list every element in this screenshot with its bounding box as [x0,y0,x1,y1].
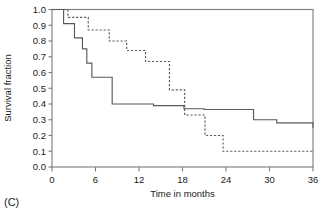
x-tick-label: 0 [49,174,54,185]
survival-curve-dashed [52,10,313,152]
survival-curve-chart: 0.00.10.20.30.40.50.60.70.80.91.0 061218… [0,0,327,217]
panel-label: (C) [4,196,19,208]
y-tick-label: 0.3 [33,114,46,125]
y-tick-label: 0.2 [33,130,46,141]
y-tick-label: 0.0 [33,161,46,172]
plot-frame [52,10,313,168]
y-tick-label: 0.7 [33,51,46,62]
figure-panel: 0.00.10.20.30.40.50.60.70.80.91.0 061218… [0,0,327,217]
y-tick-label: 0.4 [33,98,46,109]
x-tick-label: 36 [308,174,319,185]
y-axis-title: Survival fraction [2,54,13,122]
x-tick-label: 12 [134,174,145,185]
x-tick-label: 24 [221,174,232,185]
x-axis-tick-labels: 061218243036 [49,174,318,185]
x-tick-label: 30 [264,174,275,185]
x-axis-ticks [52,167,313,172]
y-tick-label: 0.5 [33,83,46,94]
y-tick-label: 0.8 [33,35,46,46]
y-tick-label: 0.6 [33,67,46,78]
y-tick-label: 0.9 [33,20,46,31]
y-axis-tick-labels: 0.00.10.20.30.40.50.60.70.80.91.0 [33,4,46,173]
x-tick-label: 18 [177,174,188,185]
y-tick-label: 0.1 [33,146,46,157]
survival-curve-solid [52,10,313,128]
y-tick-label: 1.0 [33,4,46,15]
x-tick-label: 6 [93,174,98,185]
x-axis-title: Time in months [150,188,215,199]
